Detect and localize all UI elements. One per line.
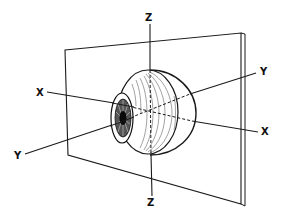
plane-edge	[241, 33, 245, 206]
eye-axes-diagram: Z Z X X Y Y	[0, 0, 282, 217]
cornea-iris	[110, 93, 134, 143]
label-y-left: Y	[13, 150, 22, 161]
label-x-left: X	[36, 87, 44, 98]
y-axis-left	[25, 125, 112, 154]
label-x-right: X	[261, 126, 269, 137]
x-axis-right	[192, 121, 258, 132]
z-axis-bottom	[151, 154, 152, 196]
x-axis-left	[47, 92, 114, 103]
label-y-right: Y	[259, 66, 268, 77]
pupil	[120, 111, 127, 125]
label-z-top: Z	[145, 12, 152, 23]
y-axis-right	[190, 73, 256, 94]
label-z-bottom: Z	[147, 197, 154, 208]
